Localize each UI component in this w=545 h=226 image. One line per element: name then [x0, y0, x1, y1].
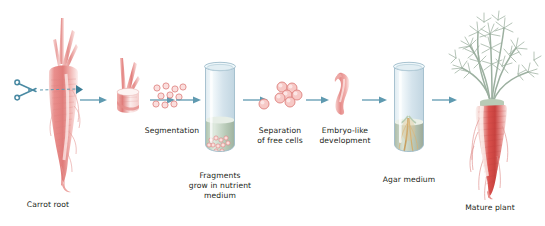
arrow-1 [80, 95, 108, 105]
label-embryo-line1: Embryo-like [322, 126, 368, 135]
dashed-cut-line [40, 85, 84, 95]
excised-root-piece-illustration [108, 56, 150, 120]
label-segmentation: Segmentation [145, 126, 200, 135]
label-fragments-line2: grow in nutrient [189, 181, 251, 190]
mature-plant-illustration [440, 6, 544, 201]
label-fragments-line3: medium [204, 191, 236, 200]
diagram-canvas: Carrot root [0, 0, 545, 226]
label-embryo-line2: development [319, 136, 370, 145]
label-separation-line2: of free cells [257, 136, 302, 145]
arrow-6 [362, 95, 388, 105]
label-separation-line1: Separation [259, 126, 301, 135]
free-cells-cluster-illustration [256, 80, 306, 116]
label-agar-medium: Agar medium [383, 175, 436, 184]
label-fragments-line1: Fragments [199, 171, 240, 180]
arrow-3 [176, 95, 202, 105]
nutrient-medium-test-tube [200, 60, 240, 160]
agar-medium-test-tube [389, 60, 429, 160]
label-carrot-root: Carrot root [27, 200, 69, 209]
arrow-5 [306, 95, 330, 105]
label-mature-plant: Mature plant [465, 203, 515, 212]
scissors-icon [14, 79, 40, 101]
embryo-illustration [328, 70, 360, 118]
